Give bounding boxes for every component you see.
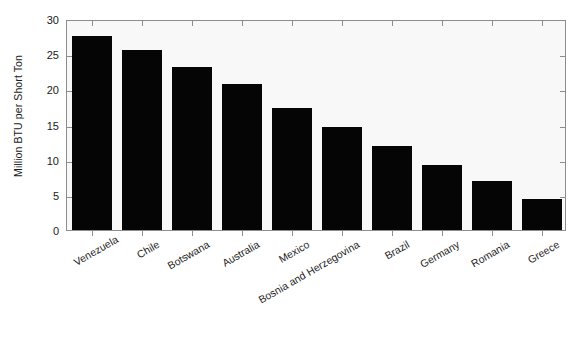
bar <box>522 199 563 230</box>
bar <box>422 165 463 230</box>
y-axis-tick-mark-right <box>560 162 565 163</box>
x-axis-tick-mark-top <box>292 21 293 26</box>
bar <box>222 84 263 230</box>
y-axis-tick-mark-right <box>560 197 565 198</box>
y-axis-tick-mark-right <box>560 91 565 92</box>
bar <box>472 181 513 230</box>
y-axis-tick-label: 10 <box>47 155 59 167</box>
plot-area <box>66 20 566 231</box>
x-axis-tick-mark-top <box>92 21 93 26</box>
x-axis-tick-mark-top <box>542 21 543 26</box>
y-axis-tick-label: 30 <box>47 14 59 26</box>
y-axis-tick-label: 20 <box>47 84 59 96</box>
x-axis-tick-mark-top <box>242 21 243 26</box>
bar <box>122 50 163 230</box>
y-axis-tick-mark-right <box>560 56 565 57</box>
bar-chart-figure: Million BTU per Short Ton 051015202530 V… <box>0 0 586 337</box>
x-axis-tick-mark-top <box>492 21 493 26</box>
bar <box>172 67 213 230</box>
y-axis-tick-label: 5 <box>53 190 59 202</box>
x-axis-tick-label: Venezuela <box>71 237 113 268</box>
bar <box>272 108 313 230</box>
y-axis-tick-label: 25 <box>47 49 59 61</box>
bar <box>72 36 113 230</box>
x-axis-tick-mark-top <box>392 21 393 26</box>
bar <box>372 146 413 230</box>
x-axis-tick-mark-top <box>192 21 193 26</box>
y-axis-tick-label: 15 <box>47 120 59 132</box>
y-axis-tick-mark-right <box>560 127 565 128</box>
x-axis-tick-labels: VenezuelaChileBotswanaAustraliaMexicoBos… <box>66 231 566 337</box>
y-axis-tick-label: 0 <box>53 225 59 237</box>
x-axis-tick-mark-top <box>442 21 443 26</box>
y-axis-tick-labels: 051015202530 <box>28 20 62 231</box>
y-axis-title-text: Million BTU per Short Ton <box>12 55 24 177</box>
x-axis-tick-mark-top <box>142 21 143 26</box>
x-axis-tick-mark-top <box>342 21 343 26</box>
y-axis-title: Million BTU per Short Ton <box>6 0 30 232</box>
bar <box>322 127 363 230</box>
